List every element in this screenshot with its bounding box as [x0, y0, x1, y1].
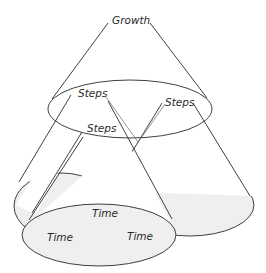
time-label-left: Time: [47, 231, 73, 243]
time-label-right: Time: [127, 230, 153, 242]
steps-label-right: Steps: [165, 96, 195, 108]
steps-label-left: Steps: [78, 87, 108, 99]
diagram-canvas: Growth Steps Steps Steps Time Time Time: [0, 0, 266, 273]
growth-label: Growth: [112, 14, 150, 26]
time-label-top: Time: [92, 207, 118, 219]
growth-cone-base: [48, 80, 212, 138]
cone-diagram: Growth Steps Steps Steps Time Time Time: [0, 0, 266, 273]
steps-label-center: Steps: [87, 122, 117, 134]
